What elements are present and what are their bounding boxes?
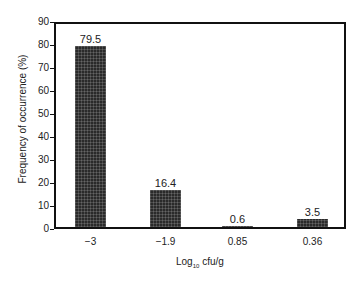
y-tick-label: 90 [19, 16, 49, 27]
bar [75, 46, 106, 227]
x-tick-label: 0.85 [218, 236, 258, 247]
y-tick-label: 40 [19, 131, 49, 142]
bar [222, 226, 253, 228]
y-tick-label: 0 [19, 223, 49, 234]
y-axis-label: Frequency of occurrence (%) [17, 64, 28, 184]
y-tick-label: 80 [19, 39, 49, 50]
bar-value-label: 16.4 [146, 177, 186, 189]
bar [150, 190, 181, 227]
y-tick-mark [50, 68, 54, 69]
bar-value-label: 3.5 [293, 206, 333, 218]
bar [297, 219, 328, 227]
bar-value-label: 79.5 [71, 33, 111, 45]
y-tick-label: 10 [19, 200, 49, 211]
y-tick-label: 20 [19, 177, 49, 188]
y-tick-mark [50, 22, 54, 23]
x-tick-label: 0.36 [293, 236, 333, 247]
y-tick-mark [50, 45, 54, 46]
y-tick-mark [50, 137, 54, 138]
x-tick-label: −3 [71, 236, 111, 247]
bar-value-label: 0.6 [218, 213, 258, 225]
x-axis-label-main: Log [176, 256, 193, 267]
y-tick-label: 50 [19, 108, 49, 119]
y-tick-label: 30 [19, 154, 49, 165]
plot-area [54, 22, 346, 229]
y-tick-label: 70 [19, 62, 49, 73]
y-tick-label: 60 [19, 85, 49, 96]
x-tick-label: −1.9 [146, 236, 186, 247]
y-tick-mark [50, 183, 54, 184]
y-tick-mark [50, 229, 54, 230]
y-tick-mark [50, 91, 54, 92]
y-tick-mark [50, 206, 54, 207]
x-axis-label-unit: cfu/g [199, 256, 223, 267]
y-tick-mark [50, 114, 54, 115]
x-axis-label: Log10 cfu/g [176, 256, 224, 269]
y-tick-mark [50, 160, 54, 161]
